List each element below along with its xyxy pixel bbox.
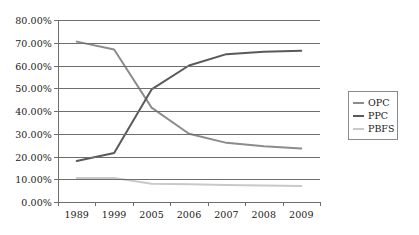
gridline bbox=[58, 43, 320, 44]
gridline bbox=[58, 179, 320, 180]
x-axis-tick bbox=[133, 202, 134, 206]
y-axis-label: 30.00% bbox=[15, 128, 52, 139]
y-axis-label: 80.00% bbox=[15, 15, 52, 26]
y-axis-label: 60.00% bbox=[15, 60, 52, 71]
y-axis-label: 20.00% bbox=[15, 151, 52, 162]
legend-label: OPC bbox=[368, 98, 389, 108]
x-axis-label: 2008 bbox=[252, 209, 277, 220]
x-axis-tick bbox=[208, 202, 209, 206]
legend-swatch-icon bbox=[353, 115, 364, 117]
y-axis-label: 10.00% bbox=[15, 174, 52, 185]
x-axis-label: 2005 bbox=[139, 209, 164, 220]
x-axis-tick bbox=[245, 202, 246, 206]
x-axis-label: 2007 bbox=[214, 209, 239, 220]
series-line-opc bbox=[77, 42, 302, 149]
gridline bbox=[58, 157, 320, 158]
y-axis-tick bbox=[54, 43, 58, 44]
x-axis-label: 2009 bbox=[289, 209, 314, 220]
series-line-ppc bbox=[77, 51, 302, 161]
legend-label: PPC bbox=[368, 111, 388, 121]
x-axis-label: 1999 bbox=[102, 209, 127, 220]
y-axis-tick bbox=[54, 20, 58, 21]
x-axis-tick bbox=[320, 202, 321, 206]
gridline bbox=[58, 66, 320, 67]
y-axis-tick bbox=[54, 134, 58, 135]
x-axis-label: 2006 bbox=[177, 209, 202, 220]
gridline bbox=[58, 134, 320, 135]
x-axis-label: 1989 bbox=[64, 209, 89, 220]
gridline bbox=[58, 20, 320, 21]
y-axis-label: 40.00% bbox=[15, 106, 52, 117]
x-axis-tick bbox=[283, 202, 284, 206]
y-axis-tick bbox=[54, 179, 58, 180]
legend-label: PBFS bbox=[368, 124, 394, 134]
x-axis-tick bbox=[58, 202, 59, 206]
x-axis-tick bbox=[170, 202, 171, 206]
y-axis-tick bbox=[54, 157, 58, 158]
y-axis-label: 50.00% bbox=[15, 83, 52, 94]
legend-item-pbfs[interactable]: PBFS bbox=[353, 122, 394, 135]
gridline bbox=[58, 88, 320, 89]
y-axis-tick bbox=[54, 111, 58, 112]
legend-swatch-icon bbox=[353, 128, 364, 130]
legend-item-ppc[interactable]: PPC bbox=[353, 109, 394, 122]
line-chart: 0.00%10.00%20.00%30.00%40.00%50.00%60.00… bbox=[0, 0, 419, 235]
y-axis-label: 70.00% bbox=[15, 37, 52, 48]
x-axis-tick bbox=[95, 202, 96, 206]
gridline bbox=[58, 202, 320, 203]
y-axis-tick bbox=[54, 88, 58, 89]
plot-area: 0.00%10.00%20.00%30.00%40.00%50.00%60.00… bbox=[58, 20, 320, 202]
chart-legend: OPCPPCPBFS bbox=[348, 91, 398, 140]
y-axis-label: 0.00% bbox=[21, 197, 52, 208]
legend-swatch-icon bbox=[353, 102, 364, 104]
y-axis-tick bbox=[54, 66, 58, 67]
gridline bbox=[58, 111, 320, 112]
legend-item-opc[interactable]: OPC bbox=[353, 96, 394, 109]
